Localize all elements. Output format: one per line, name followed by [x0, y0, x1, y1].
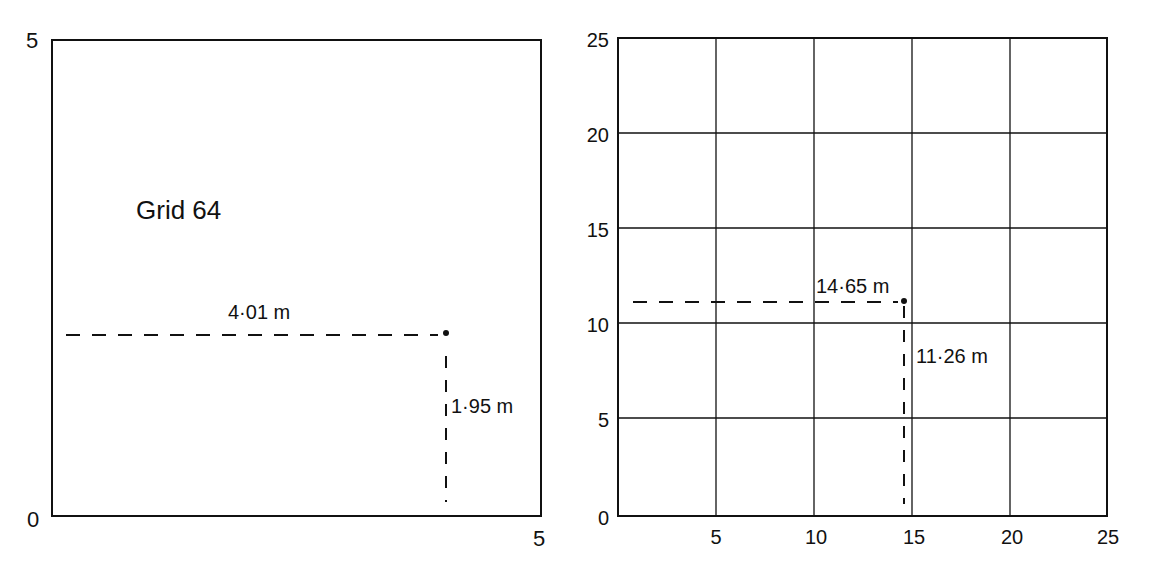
right-panel: 25 20 15 10 5 0 5 10 15 20 25 14·65 m 11… — [587, 29, 1119, 548]
right-point-marker — [901, 298, 907, 304]
right-y-measure-label: 11·26 m — [916, 345, 988, 367]
right-x-tick-labels: 5 10 15 20 25 — [710, 526, 1119, 548]
left-x-max-label: 5 — [533, 526, 545, 551]
svg-text:15: 15 — [587, 219, 609, 241]
left-y-measure-label: 1·95 m — [451, 395, 513, 417]
svg-text:10: 10 — [805, 526, 827, 548]
svg-text:0: 0 — [598, 507, 609, 529]
svg-text:5: 5 — [710, 526, 721, 548]
right-x-measure-label: 14·65 m — [816, 275, 889, 297]
left-grid-title: Grid 64 — [136, 195, 221, 225]
svg-text:20: 20 — [1001, 526, 1023, 548]
left-grid-frame — [52, 40, 541, 516]
grid-diagram: 5 0 5 Grid 64 4·01 m 1·95 m 25 20 15 10 … — [0, 0, 1151, 572]
svg-text:25: 25 — [587, 29, 609, 51]
svg-text:10: 10 — [587, 314, 609, 336]
left-point-marker — [443, 330, 449, 336]
left-y-max-label: 5 — [26, 28, 38, 53]
left-panel: 5 0 5 Grid 64 4·01 m 1·95 m — [26, 28, 545, 551]
svg-text:25: 25 — [1097, 526, 1119, 548]
svg-text:20: 20 — [587, 124, 609, 146]
svg-text:15: 15 — [903, 526, 925, 548]
left-origin-label: 0 — [27, 507, 39, 532]
right-y-tick-labels: 25 20 15 10 5 0 — [587, 29, 609, 529]
left-x-measure-label: 4·01 m — [228, 301, 290, 323]
svg-text:5: 5 — [598, 409, 609, 431]
